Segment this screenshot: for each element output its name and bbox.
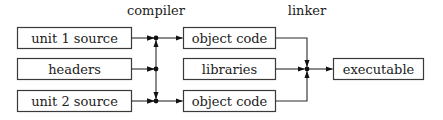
input-box-headers: headers bbox=[18, 59, 132, 80]
intermediate-label: object code bbox=[192, 31, 268, 46]
junction-dot bbox=[154, 36, 159, 41]
input-box-unit1-source: unit 1 source bbox=[18, 28, 132, 49]
output-label: executable bbox=[343, 62, 415, 77]
intermediate-label: object code bbox=[192, 94, 268, 109]
input-box-unit2-source: unit 2 source bbox=[18, 91, 132, 112]
executable-box: executable bbox=[334, 59, 424, 80]
linker-label: linker bbox=[288, 3, 327, 18]
object-code-box-1: object code bbox=[184, 28, 276, 49]
input-label: unit 1 source bbox=[31, 31, 118, 46]
junction-dot bbox=[154, 99, 159, 104]
input-label: unit 2 source bbox=[31, 94, 118, 109]
junction-dot bbox=[305, 67, 310, 72]
libraries-box: libraries bbox=[184, 59, 276, 80]
input-label: headers bbox=[48, 62, 101, 77]
compiler-connectors bbox=[132, 36, 183, 104]
compiler-label: compiler bbox=[127, 3, 186, 18]
linker-connectors bbox=[276, 38, 333, 101]
object-code-box-2: object code bbox=[184, 91, 276, 112]
junction-dot bbox=[154, 67, 159, 72]
build-pipeline-diagram: compiler linker unit 1 source headers un… bbox=[0, 0, 443, 120]
intermediate-label: libraries bbox=[202, 62, 257, 77]
